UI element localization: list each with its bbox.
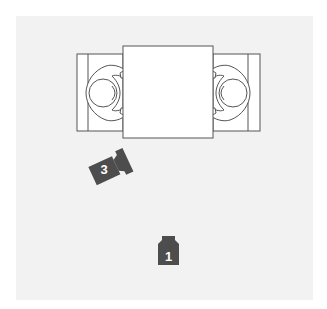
camera-1-label: 1 — [165, 249, 172, 264]
camera-3-label: 3 — [100, 162, 107, 177]
table — [123, 46, 213, 138]
diagram-canvas: 3 1 — [0, 0, 327, 309]
camera-3-icon — [87, 148, 133, 188]
floor-plan-svg: 3 1 — [0, 0, 327, 309]
